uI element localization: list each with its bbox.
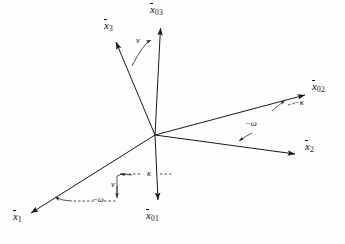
- axis-ray-x03: [155, 28, 161, 135]
- axis-ray-x01: [155, 135, 158, 200]
- axis-label-x03: x03: [150, 4, 163, 15]
- axis-label-x2: x2: [305, 141, 314, 152]
- axis-label-x3-sub: 3: [109, 24, 113, 33]
- diagram-canvas: x03 x3 x02 x2 x1 x01 ν −κ −ω κ ν −ω: [0, 0, 345, 244]
- angle-label-omega-right: −ω: [245, 119, 257, 128]
- angle-arc-kappa-bottom: [120, 174, 171, 175]
- axis-ray-x3: [116, 42, 155, 135]
- axes-vector-graphics: [0, 0, 345, 244]
- angle-label-nu-bottom: ν: [111, 180, 115, 189]
- axis-label-x02-sub: 02: [317, 85, 325, 94]
- axis-label-x01: x01: [146, 210, 159, 221]
- angle-label-kappa-right: −κ: [294, 98, 304, 107]
- axis-label-x1: x1: [13, 211, 22, 222]
- axis-label-x1-sub: 1: [18, 215, 22, 224]
- angle-arc-omega-right: [239, 133, 252, 141]
- axis-label-x02: x02: [312, 81, 325, 92]
- axis-label-x03-sub: 03: [155, 8, 163, 17]
- angle-label-nu-top: ν: [136, 36, 140, 45]
- axis-label-x01-sub: 01: [151, 214, 159, 223]
- axis-label-x2-sub: 2: [310, 145, 314, 154]
- angle-label-omega-bottom: −ω: [92, 195, 104, 204]
- angle-arc-omega-bottom: [55, 197, 117, 201]
- axis-ray-x2: [155, 135, 295, 154]
- angle-bracket-nu-bottom: [117, 174, 122, 198]
- angle-arc-nu-top: [132, 40, 151, 66]
- angle-arc-kappa-right: [272, 100, 296, 111]
- axis-ray-x02: [155, 95, 305, 135]
- angle-label-kappa-bottom: κ: [147, 169, 151, 178]
- axis-label-x3: x3: [104, 20, 113, 31]
